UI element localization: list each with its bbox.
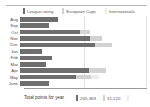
- row-label: Oct: [0, 30, 20, 35]
- bar-segment: [20, 17, 58, 22]
- total-swatch-icon: [76, 95, 78, 101]
- total-swatch-icon: [127, 95, 129, 101]
- bar-segment: [20, 30, 80, 35]
- legend-item-internationals[interactable]: Internationals: [105, 8, 135, 14]
- chart-footer: Total points for year 265,369 51,120: [24, 93, 150, 103]
- row-bars: [20, 62, 150, 67]
- row-bars: [20, 30, 150, 35]
- total-value: 265,369: [80, 96, 96, 101]
- total-item-league-rating: 265,369: [76, 95, 96, 101]
- bar-segment: [91, 75, 99, 80]
- chart-plot-area: Aug Sep Oct Nov Dec Jan Feb Mar: [0, 16, 150, 87]
- bar-segment: [20, 23, 49, 28]
- footer-divider: [24, 88, 147, 89]
- row-label: May: [0, 75, 20, 80]
- bar-segment: [89, 68, 106, 73]
- stacked-bar-chart-widget: League rating European Cups Internationa…: [0, 0, 150, 107]
- total-item-internationals: [127, 95, 131, 101]
- bar-segment: [76, 75, 91, 80]
- bar-segment: [20, 75, 76, 80]
- bar-segment: [20, 56, 52, 61]
- chart-row[interactable]: June: [0, 80, 150, 86]
- legend-item-league-rating[interactable]: League rating: [23, 8, 53, 14]
- chart-legend: League rating European Cups Internationa…: [23, 7, 148, 15]
- total-item-european-cups: 51,120: [103, 95, 120, 101]
- bar-segment: [20, 43, 95, 48]
- bar-segment: [90, 36, 102, 41]
- row-bars: [20, 49, 150, 54]
- legend-swatch-icon: [105, 8, 107, 14]
- legend-swatch-icon: [62, 8, 64, 14]
- bar-segment: [95, 43, 111, 48]
- bar-segment: [20, 62, 46, 67]
- legend-swatch-icon: [23, 8, 25, 14]
- bar-segment: [80, 30, 90, 35]
- row-label: June: [0, 81, 20, 86]
- row-label: Mar: [0, 62, 20, 67]
- row-label: Nov: [0, 36, 20, 41]
- bar-segment: [20, 68, 89, 73]
- row-bars: [20, 17, 150, 22]
- row-bars: [20, 56, 150, 61]
- header-divider: [6, 5, 147, 6]
- row-label: Feb: [0, 55, 20, 60]
- legend-item-european-cups[interactable]: European Cups: [62, 8, 96, 14]
- row-bars: [20, 36, 150, 41]
- total-value: 51,120: [107, 96, 120, 101]
- row-label: Jan: [0, 49, 20, 54]
- row-bars: [20, 68, 150, 73]
- legend-label: League rating: [27, 9, 53, 14]
- row-label: Apr: [0, 68, 20, 73]
- bar-segment: [20, 81, 49, 86]
- row-label: Aug: [0, 17, 20, 22]
- row-bars: [20, 81, 150, 86]
- bar-segment: [20, 49, 42, 54]
- total-points-values: 265,369 51,120: [76, 95, 131, 101]
- row-bars: [20, 75, 150, 80]
- legend-label: Internationals: [109, 9, 135, 14]
- legend-label: European Cups: [66, 9, 96, 14]
- row-bars: [20, 23, 150, 28]
- bar-segment: [20, 36, 90, 41]
- row-label: Sep: [0, 23, 20, 28]
- row-label: Dec: [0, 42, 20, 47]
- total-points-label: Total points for year: [24, 95, 64, 101]
- total-swatch-icon: [103, 95, 105, 101]
- row-bars: [20, 43, 150, 48]
